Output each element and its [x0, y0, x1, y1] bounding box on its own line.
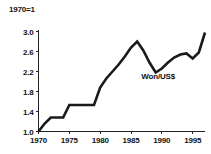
x-tick-label: 1970 — [30, 136, 48, 145]
x-tick-label: 1995 — [184, 136, 202, 145]
data-series-group — [39, 33, 206, 132]
x-tick-label: 1990 — [153, 136, 171, 145]
series-label-annotation: Won/US$ — [141, 72, 175, 81]
y-axis: 3.02.62.21.81.41.0 — [23, 28, 39, 137]
x-tick-label: 1985 — [123, 136, 141, 145]
y-tick-label: 1.8 — [23, 88, 34, 97]
line-chart-plot: 3.02.62.21.81.41.0 197019751980198519901… — [0, 0, 211, 154]
x-tick-label: 1980 — [92, 136, 110, 145]
y-tick-label: 2.6 — [23, 48, 34, 57]
series-annotation-group: Won/US$ — [141, 72, 175, 81]
y-tick-label: 2.2 — [23, 68, 34, 77]
chart-figure: 1970=1 3.02.62.21.81.41.0 19701975198019… — [0, 0, 211, 154]
data-line-won-us — [39, 33, 206, 132]
y-tick-label: 1.4 — [23, 108, 34, 117]
x-axis: 197019751980198519901995 — [30, 132, 205, 146]
y-tick-label: 3.0 — [23, 28, 34, 37]
x-tick-label: 1975 — [61, 136, 79, 145]
